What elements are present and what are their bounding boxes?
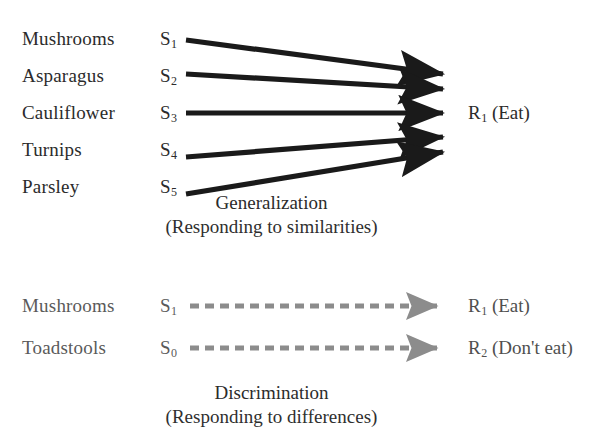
stimulus-code-subscript: 2	[171, 74, 178, 88]
response-code-subscript: 1	[481, 111, 488, 125]
response-code-subscript: 2	[481, 346, 488, 360]
discrimination-stimulus-label-toadstools: Toadstools	[22, 337, 106, 359]
discrimination-stimulus-code-s0: S0	[160, 337, 177, 361]
stimulus-code-subscript: 1	[171, 37, 178, 51]
stimulus-code-letter: S	[160, 139, 171, 160]
response-text: (Eat)	[492, 102, 530, 123]
generalization-arrow-1	[186, 40, 443, 74]
generalization-caption: Generalization	[0, 192, 573, 214]
generalization-subcaption: (Responding to similarities)	[0, 216, 573, 238]
stimulus-code-s4: S4	[160, 139, 177, 163]
stimulus-code-s1: S1	[160, 28, 177, 52]
stimulus-code-subscript: 4	[171, 148, 178, 162]
stimulus-code-letter: S	[160, 102, 171, 123]
discrimination-response-label-r2-dont-eat: R2 (Don't eat)	[468, 337, 573, 361]
generalization-arrow-2	[186, 74, 443, 89]
stimulus-label-turnips: Turnips	[22, 139, 82, 161]
response-code-subscript: 1	[481, 304, 488, 318]
stimulus-code-subscript: 1	[171, 304, 178, 318]
generalization-arrow-4	[186, 137, 443, 157]
response-label-r1-eat: R1 (Eat)	[468, 102, 530, 126]
response-text: (Don't eat)	[492, 337, 573, 358]
discrimination-stimulus-label-mushrooms: Mushrooms	[22, 295, 115, 317]
stimulus-code-letter: S	[160, 28, 171, 49]
discrimination-stimulus-code-s1: S1	[160, 295, 177, 319]
stimulus-code-s2: S2	[160, 65, 177, 89]
response-code-letter: R	[468, 337, 481, 358]
stimulus-code-subscript: 0	[171, 346, 178, 360]
stimulus-code-letter: S	[160, 337, 171, 358]
stimulus-code-letter: S	[160, 65, 171, 86]
discrimination-subcaption: (Responding to differences)	[0, 406, 573, 428]
diagram-canvas: Mushrooms S1 Asparagus S2 Cauliflower S3…	[0, 0, 603, 448]
discrimination-response-label-r1-eat: R1 (Eat)	[468, 295, 530, 319]
generalization-arrow-5	[186, 152, 443, 194]
response-text: (Eat)	[492, 295, 530, 316]
stimulus-code-subscript: 3	[171, 111, 178, 125]
response-code-letter: R	[468, 295, 481, 316]
discrimination-caption: Discrimination	[0, 382, 573, 404]
stimulus-code-letter: S	[160, 295, 171, 316]
stimulus-label-asparagus: Asparagus	[22, 65, 104, 87]
stimulus-label-cauliflower: Cauliflower	[22, 102, 115, 124]
stimulus-label-mushrooms: Mushrooms	[22, 28, 115, 50]
stimulus-code-s3: S3	[160, 102, 177, 126]
response-code-letter: R	[468, 102, 481, 123]
